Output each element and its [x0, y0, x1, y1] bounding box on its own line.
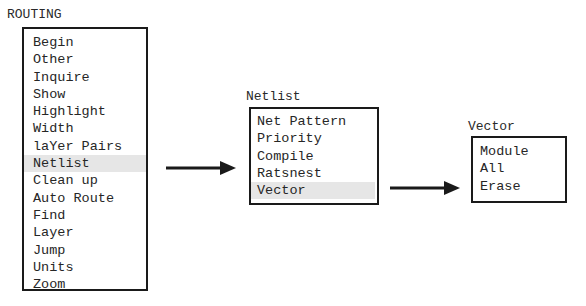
routing-item-netlist[interactable]: Netlist: [24, 155, 146, 172]
netlist-item-vector[interactable]: Vector: [251, 182, 375, 199]
routing-menu-title: ROUTING: [7, 8, 62, 22]
routing-item-show[interactable]: Show: [24, 86, 146, 103]
vector-item-module[interactable]: Module: [473, 143, 565, 160]
routing-item-highlight[interactable]: Highlight: [24, 103, 146, 120]
routing-item-zoom[interactable]: Zoom: [24, 276, 146, 293]
right-arrow-icon: [388, 180, 462, 196]
netlist-menu-title: Netlist: [246, 90, 301, 104]
netlist-item-priority[interactable]: Priority: [251, 130, 377, 147]
vector-item-all[interactable]: All: [473, 160, 565, 177]
routing-item-find[interactable]: Find: [24, 207, 146, 224]
vector-item-erase[interactable]: Erase: [473, 178, 565, 195]
netlist-item-compile[interactable]: Compile: [251, 148, 377, 165]
routing-item-layer[interactable]: Layer: [24, 224, 146, 241]
routing-item-auto-route[interactable]: Auto Route: [24, 190, 146, 207]
netlist-item-net-pattern[interactable]: Net Pattern: [251, 113, 377, 130]
right-arrow-icon: [164, 160, 238, 176]
routing-menu: Begin Other Inquire Show Highlight Width…: [22, 27, 148, 291]
vector-menu-title: Vector: [468, 120, 515, 134]
routing-item-inquire[interactable]: Inquire: [24, 69, 146, 86]
routing-item-layer-pairs[interactable]: laYer Pairs: [24, 138, 146, 155]
routing-item-width[interactable]: Width: [24, 120, 146, 137]
routing-item-begin[interactable]: Begin: [24, 34, 146, 51]
vector-menu: Module All Erase: [471, 136, 567, 203]
routing-item-units[interactable]: Units: [24, 259, 146, 276]
netlist-menu: Net Pattern Priority Compile Ratsnest Ve…: [249, 107, 379, 205]
routing-item-other[interactable]: Other: [24, 51, 146, 68]
netlist-item-ratsnest[interactable]: Ratsnest: [251, 165, 377, 182]
routing-item-jump[interactable]: Jump: [24, 242, 146, 259]
routing-item-clean-up[interactable]: Clean up: [24, 172, 146, 189]
